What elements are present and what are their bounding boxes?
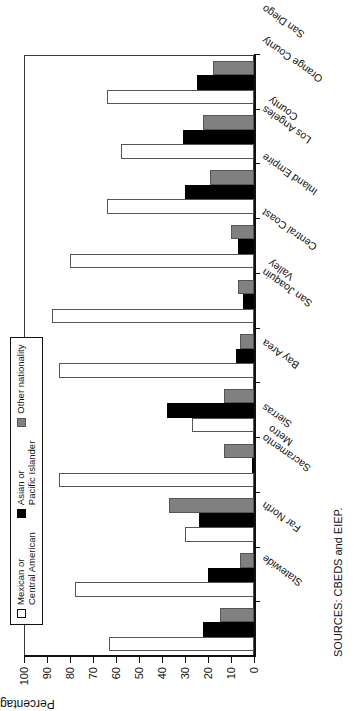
bar [59, 473, 255, 488]
axis-tick-label: 20 [202, 667, 214, 705]
bar [192, 418, 254, 433]
bar [107, 199, 254, 214]
category-tick [254, 328, 260, 329]
category-label: Inland Empire [260, 151, 319, 197]
axis-tick [116, 657, 117, 663]
category-label: Orange County [260, 35, 325, 85]
axis-tick [185, 657, 186, 663]
bar [52, 309, 254, 324]
legend-swatch-gray-icon [17, 418, 26, 427]
axis-tick-label: 40 [156, 667, 168, 705]
bar [240, 553, 254, 568]
legend-item: Other nationality [16, 345, 27, 427]
bar [59, 363, 255, 378]
category-label: San Joaquin Valley [260, 258, 320, 310]
bar [121, 144, 254, 159]
legend-label: Asian or Pacific Islander [16, 441, 37, 505]
bar [238, 280, 254, 295]
category-axis [254, 55, 256, 657]
axis-tick [70, 657, 71, 663]
bar [185, 527, 254, 542]
axis-tick [47, 657, 48, 663]
bar-group [24, 498, 254, 542]
bar-group [24, 334, 254, 378]
bar [185, 185, 254, 200]
bar [70, 254, 254, 269]
bar-group [24, 225, 254, 269]
bar [252, 458, 254, 473]
legend-swatch-black-icon [17, 509, 26, 518]
category-label: Far North [260, 500, 303, 534]
bar [243, 294, 255, 309]
bar [213, 61, 254, 76]
axis-tick-label: 10 [225, 667, 237, 705]
bar-group [24, 608, 254, 652]
category-tick [254, 163, 260, 164]
bar-group [24, 280, 254, 324]
bar [203, 115, 254, 130]
category-tick [254, 547, 260, 548]
legend-item: Asian or Pacific Islander [16, 441, 37, 518]
bar [197, 75, 255, 90]
bar [240, 334, 254, 349]
bar [208, 568, 254, 583]
bar [199, 513, 254, 528]
category-tick [254, 273, 260, 274]
bar-group [24, 389, 254, 433]
axis-tick [162, 657, 163, 663]
axis-tick [231, 657, 232, 663]
source-note: SOURCES: CBEDS and EIEP. [332, 507, 344, 657]
axis-tick-label: 0 [248, 667, 260, 705]
axis-tick [93, 657, 94, 663]
category-tick [254, 601, 260, 602]
bar [169, 498, 254, 513]
category-tick [254, 54, 260, 55]
bar [107, 90, 254, 105]
legend-label: Mexican or Central American [16, 532, 37, 605]
bar-group [24, 170, 254, 214]
category-label: Bay Area [260, 337, 301, 370]
legend-swatch-white-icon [17, 609, 26, 618]
bar [210, 170, 254, 185]
category-label: San Diego [260, 3, 306, 40]
bar [224, 444, 254, 459]
bar [238, 239, 254, 254]
category-label: Sacramento Metro [260, 424, 319, 475]
bar [224, 389, 254, 404]
bar-group [24, 115, 254, 159]
axis-tick [208, 657, 209, 663]
bar [167, 403, 254, 418]
bar [203, 622, 254, 637]
axis-tick [254, 657, 255, 663]
category-tick [254, 437, 260, 438]
bar [183, 130, 254, 145]
legend-item: Mexican or Central American [16, 532, 37, 618]
legend-label: Other nationality [16, 345, 27, 414]
bar-group [24, 553, 254, 597]
bar [231, 225, 254, 240]
category-tick [254, 109, 260, 110]
chart-legend: Mexican or Central AmericanAsian or Paci… [10, 337, 43, 625]
axis-tick-label: 30 [179, 667, 191, 705]
bars-layer [24, 55, 254, 657]
y-axis-title: Percentage [0, 697, 139, 711]
bar [109, 637, 254, 652]
bar [236, 349, 254, 364]
category-tick [254, 492, 260, 493]
axis-tick [24, 657, 25, 663]
category-label: Los Angeles County [260, 95, 320, 146]
bar-group [24, 61, 254, 105]
bar [220, 608, 255, 623]
category-tick [254, 218, 260, 219]
category-label: Statewide [260, 553, 304, 588]
bar-group [24, 444, 254, 488]
bar [75, 582, 254, 597]
category-tick [254, 382, 260, 383]
axis-tick [139, 657, 140, 663]
category-label: Central Coast [260, 206, 319, 252]
